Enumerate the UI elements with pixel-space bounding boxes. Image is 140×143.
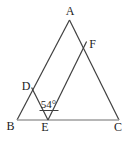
side-ac bbox=[70, 20, 120, 120]
label-point-e: E bbox=[41, 120, 48, 134]
label-vertex-a: A bbox=[66, 4, 75, 18]
geometry-figure: A B C D E F 54° bbox=[0, 0, 140, 143]
label-point-f: F bbox=[89, 37, 96, 51]
triangle-diagram: A B C D E F 54° bbox=[0, 0, 140, 143]
label-vertex-c: C bbox=[114, 120, 122, 134]
label-vertex-b: B bbox=[6, 119, 14, 133]
angle-value-label: 54° bbox=[41, 98, 56, 110]
label-point-d: D bbox=[22, 79, 31, 93]
